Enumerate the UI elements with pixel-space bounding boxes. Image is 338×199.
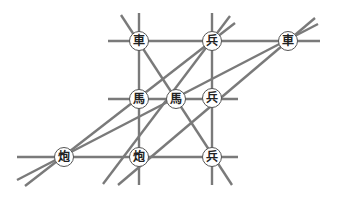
piece-label: 兵 — [206, 151, 218, 163]
piece-soldier-top: 兵 — [202, 31, 222, 51]
piece-label: 炮 — [58, 151, 70, 163]
piece-horse-left: 馬 — [129, 89, 149, 109]
piece-label: 車 — [133, 35, 145, 47]
piece-label: 兵 — [206, 92, 218, 104]
piece-label: 炮 — [133, 151, 145, 163]
piece-label: 兵 — [206, 35, 218, 47]
piece-label: 車 — [282, 35, 294, 47]
piece-cannon-center: 炮 — [129, 147, 149, 167]
piece-soldier-middle: 兵 — [202, 88, 222, 108]
piece-label: 馬 — [170, 93, 182, 105]
piece-horse-center: 馬 — [166, 89, 186, 109]
piece-chariot-top-right: 車 — [278, 31, 298, 51]
piece-chariot-top-left: 車 — [129, 31, 149, 51]
piece-soldier-bottom: 兵 — [202, 147, 222, 167]
piece-cannon-left: 炮 — [54, 147, 74, 167]
piece-label: 馬 — [133, 93, 145, 105]
